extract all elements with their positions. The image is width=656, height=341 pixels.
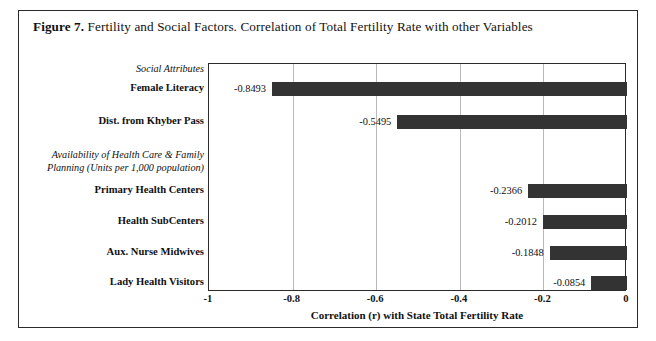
category-group-header: Social Attributes <box>19 63 204 75</box>
bar-value-label: -0.1848 <box>512 245 544 260</box>
bar-value-label: -0.2366 <box>490 183 522 198</box>
bar-row: -0.2366 <box>209 184 625 198</box>
x-axis-tick: 0 <box>623 293 628 304</box>
bar-row: -0.1848 <box>209 246 625 260</box>
figure-frame: Figure 7. Fertility and Social Factors. … <box>18 10 638 328</box>
figure-caption: Figure 7. Fertility and Social Factors. … <box>33 19 633 35</box>
x-axis-title: Correlation (r) with State Total Fertili… <box>208 309 626 321</box>
bar-value-label: -0.0854 <box>553 275 585 290</box>
x-axis-tick: -0.2 <box>534 293 551 304</box>
category-axis-labels: Social AttributesAvailability of Health … <box>19 63 204 291</box>
bar[interactable] <box>272 82 627 96</box>
bar-row: -0.0854 <box>209 276 625 290</box>
category-label: Lady Health Visitors <box>19 276 204 288</box>
bar[interactable] <box>550 246 627 260</box>
category-group-header: Availability of Health Care & FamilyPlan… <box>19 149 204 174</box>
bar-value-label: -0.2012 <box>505 214 537 229</box>
x-axis-tick: -0.6 <box>367 293 384 304</box>
figure-caption-label: Figure 7. <box>33 19 84 34</box>
bar-row: -0.5495 <box>209 115 625 129</box>
bar[interactable] <box>397 115 627 129</box>
bar-chart: Social AttributesAvailability of Health … <box>19 43 639 327</box>
x-axis-tick: -0.4 <box>450 293 467 304</box>
figure-caption-text: Fertility and Social Factors. Correlatio… <box>84 19 533 34</box>
x-axis-tick-labels: -1-0.8-0.6-0.4-0.20 <box>208 293 626 309</box>
bar-value-label: -0.8493 <box>234 81 266 96</box>
bar[interactable] <box>543 215 627 229</box>
bar-row: -0.2012 <box>209 215 625 229</box>
x-axis-tick: -1 <box>204 293 213 304</box>
bar[interactable] <box>528 184 627 198</box>
bar[interactable] <box>591 276 627 290</box>
category-label: Aux. Nurse Midwives <box>19 246 204 258</box>
category-label: Female Literacy <box>19 82 204 94</box>
category-label: Dist. from Khyber Pass <box>19 115 204 127</box>
plot-area: -0.8493-0.5495-0.2366-0.2012-0.1848-0.08… <box>208 63 626 291</box>
bar-row: -0.8493 <box>209 82 625 96</box>
bar-value-label: -0.5495 <box>359 114 391 129</box>
category-label: Health SubCenters <box>19 215 204 227</box>
category-label: Primary Health Centers <box>19 184 204 196</box>
x-axis-tick: -0.8 <box>283 293 300 304</box>
